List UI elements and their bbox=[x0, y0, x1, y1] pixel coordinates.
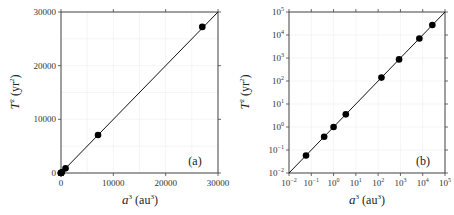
panel-b-label: (b) bbox=[416, 154, 430, 168]
data-point bbox=[62, 165, 69, 172]
data-point bbox=[396, 56, 403, 63]
x-tick-label: 10000 bbox=[102, 178, 125, 188]
x-tick-label: 103 bbox=[394, 177, 406, 188]
y-tick-label: 10−1 bbox=[269, 144, 284, 155]
y-tick-label: 102 bbox=[272, 75, 284, 86]
y-tick-label: 10−2 bbox=[269, 167, 284, 178]
panel-a-linear-plot: 00100001000020000200003000030000 (a) a3 … bbox=[7, 7, 230, 207]
data-point bbox=[416, 35, 423, 42]
panel-b-y-axis-label: T2 (yr2) bbox=[237, 74, 252, 109]
data-point bbox=[303, 152, 310, 159]
chart-figure: 00100001000020000200003000030000 (a) a3 … bbox=[0, 0, 454, 215]
panel-b-log-plot: 10−210−210−110−1100100101101102102103103… bbox=[237, 6, 451, 207]
x-tick-label: 30000 bbox=[207, 178, 230, 188]
y-tick-label: 100 bbox=[272, 121, 284, 132]
panel-a-y-axis-label: T2 (yr2) bbox=[7, 74, 22, 109]
y-tick-label: 101 bbox=[272, 98, 284, 109]
x-tick-label: 105 bbox=[439, 177, 451, 188]
x-tick-label: 20000 bbox=[154, 178, 177, 188]
x-tick-label: 100 bbox=[328, 177, 340, 188]
data-point bbox=[429, 22, 436, 29]
data-point bbox=[343, 111, 350, 118]
x-tick-label: 10−2 bbox=[281, 177, 296, 188]
data-point bbox=[330, 124, 337, 131]
panel-a-x-axis-label: a3 (au3) bbox=[122, 192, 158, 207]
y-tick-label: 104 bbox=[272, 29, 284, 40]
panel-b-x-axis-label: a3 (au3) bbox=[349, 192, 385, 207]
panel-a-label: (a) bbox=[188, 154, 201, 168]
y-tick-label: 10000 bbox=[34, 114, 57, 124]
data-point bbox=[378, 74, 385, 81]
x-tick-label: 104 bbox=[417, 177, 429, 188]
y-tick-label: 20000 bbox=[34, 61, 57, 71]
x-tick-label: 102 bbox=[372, 177, 384, 188]
data-point bbox=[321, 133, 328, 140]
data-point bbox=[199, 24, 206, 31]
x-tick-label: 0 bbox=[59, 178, 64, 188]
y-tick-label: 30000 bbox=[34, 7, 57, 17]
x-tick-label: 101 bbox=[350, 177, 362, 188]
x-tick-label: 10−1 bbox=[304, 177, 319, 188]
data-point bbox=[95, 132, 102, 139]
y-tick-label: 105 bbox=[272, 6, 284, 17]
y-tick-label: 103 bbox=[272, 52, 284, 63]
y-tick-label: 0 bbox=[52, 168, 57, 178]
